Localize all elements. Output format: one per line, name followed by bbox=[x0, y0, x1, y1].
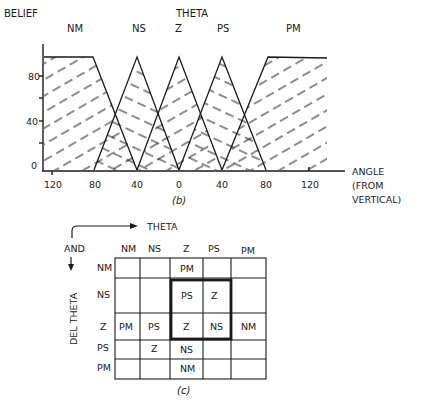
column-axis-label: THETA bbox=[146, 221, 178, 232]
x-axis-title-line1: ANGLE bbox=[352, 166, 384, 177]
row-header-ns: NS bbox=[97, 289, 110, 300]
x-axis-title-line2: (FROM bbox=[352, 180, 383, 191]
cell-z-pm: NM bbox=[241, 321, 256, 332]
x-tick-neg80: 80 bbox=[89, 179, 101, 190]
cell-nm-z: PM bbox=[180, 263, 194, 274]
y-tick-80: 80 bbox=[28, 71, 40, 82]
x-tick-neg40: 40 bbox=[131, 179, 143, 190]
col-header-nm: NM bbox=[121, 243, 136, 254]
chart-title: THETA bbox=[175, 8, 208, 19]
row-axis-label: DEL THETA bbox=[68, 292, 79, 345]
fuzzy-logic-figure: BELIEF THETA NM NS Z PS PM bbox=[0, 0, 425, 405]
cell-ns-ps: Z bbox=[211, 290, 218, 301]
y-tick-0: 0 bbox=[31, 160, 37, 171]
cell-z-ns: PS bbox=[148, 321, 160, 332]
arrow-right-icon bbox=[130, 223, 138, 229]
col-header-z: Z bbox=[183, 243, 190, 254]
col-header-ns: NS bbox=[148, 243, 161, 254]
cell-z-nm: PM bbox=[119, 321, 133, 332]
cell-ps-z: NS bbox=[180, 344, 193, 355]
caption-b: (b) bbox=[172, 195, 186, 206]
table-grid bbox=[115, 258, 266, 379]
x-axis-title-line3: VERTICAL) bbox=[352, 194, 401, 205]
set-label-ns: NS bbox=[132, 23, 146, 34]
row-header-z: Z bbox=[100, 321, 107, 332]
set-label-pm: PM bbox=[286, 23, 301, 34]
row-header-pm: PM bbox=[97, 362, 111, 373]
set-label-z: Z bbox=[175, 23, 182, 34]
caption-c: (c) bbox=[177, 385, 190, 396]
x-tick-40: 40 bbox=[216, 179, 228, 190]
cell-ps-ns: Z bbox=[151, 343, 158, 354]
cell-ns-z: PS bbox=[181, 290, 193, 301]
set-label-ps: PS bbox=[217, 23, 229, 34]
set-label-nm: NM bbox=[67, 23, 83, 34]
rule-table: THETA AND DEL THETA NM NS Z PS PM NM NS … bbox=[64, 221, 266, 396]
col-header-ps: PS bbox=[208, 243, 220, 254]
x-tick-120: 120 bbox=[301, 179, 319, 190]
col-header-pm: PM bbox=[241, 245, 255, 256]
membership-chart: BELIEF THETA NM NS Z PS PM bbox=[4, 8, 401, 206]
x-tick-80: 80 bbox=[260, 179, 272, 190]
cell-pm-z: NM bbox=[180, 363, 195, 374]
cell-z-z: Z bbox=[183, 321, 190, 332]
theta-arrow bbox=[72, 226, 130, 238]
arrow-down-icon bbox=[68, 264, 74, 271]
y-tick-40: 40 bbox=[26, 116, 38, 127]
x-tick-neg120: 120 bbox=[44, 179, 62, 190]
corner-label-and: AND bbox=[64, 243, 85, 254]
row-header-ps: PS bbox=[97, 342, 109, 353]
y-axis-title: BELIEF bbox=[4, 8, 38, 19]
cell-z-ps: NS bbox=[210, 321, 223, 332]
x-tick-0: 0 bbox=[176, 179, 182, 190]
row-header-nm: NM bbox=[97, 262, 112, 273]
